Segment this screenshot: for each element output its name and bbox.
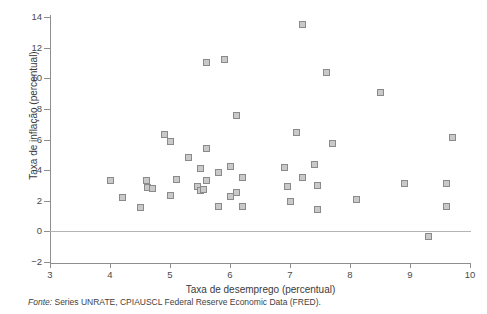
data-point-marker — [215, 203, 222, 210]
x-tick-label: 5 — [155, 270, 185, 280]
y-tick-label: 0 — [16, 226, 42, 236]
data-point-marker — [311, 161, 318, 168]
plot-area — [50, 17, 470, 262]
x-tick-label: 7 — [275, 270, 305, 280]
data-point-marker — [119, 194, 126, 201]
data-point-marker — [107, 177, 114, 184]
data-point-marker — [185, 154, 192, 161]
x-axis-title: Taxa de desemprego (percentual) — [50, 284, 471, 295]
data-point-marker — [287, 198, 294, 205]
y-axis-title: Taxa de inflação (percentual) — [28, 26, 39, 206]
x-tick-label: 10 — [455, 270, 485, 280]
data-point-marker — [314, 206, 321, 213]
data-point-marker — [173, 176, 180, 183]
data-point-marker — [443, 203, 450, 210]
source-note-text: Series UNRATE, CPIAUSCL Federal Reserve … — [52, 297, 321, 307]
data-point-marker — [233, 112, 240, 119]
y-tick-label: 14 — [16, 12, 42, 22]
data-point-marker — [281, 164, 288, 171]
data-point-marker — [137, 204, 144, 211]
data-point-marker — [203, 145, 210, 152]
x-tick-label: 9 — [395, 270, 425, 280]
data-point-marker — [293, 129, 300, 136]
data-point-marker — [353, 196, 360, 203]
data-point-marker — [449, 134, 456, 141]
x-tick-label: 4 — [95, 270, 125, 280]
x-tick-mark — [470, 263, 471, 268]
data-point-marker — [203, 177, 210, 184]
x-tick-label: 3 — [35, 270, 65, 280]
data-point-marker — [149, 185, 156, 192]
data-point-marker — [233, 189, 240, 196]
x-tick-mark — [110, 263, 111, 268]
data-point-marker — [323, 69, 330, 76]
data-point-marker — [401, 180, 408, 187]
data-point-marker — [197, 165, 204, 172]
x-tick-mark — [170, 263, 171, 268]
x-axis-line — [50, 263, 471, 264]
data-point-marker — [167, 192, 174, 199]
data-point-marker — [215, 169, 222, 176]
y-tick-label: −2 — [16, 257, 42, 267]
x-tick-label: 8 — [335, 270, 365, 280]
source-note-label: Fonte: — [28, 297, 52, 307]
data-point-marker — [443, 180, 450, 187]
data-point-marker — [203, 59, 210, 66]
data-point-marker — [221, 56, 228, 63]
x-tick-mark — [350, 263, 351, 268]
data-point-marker — [239, 174, 246, 181]
data-point-marker — [425, 233, 432, 240]
x-tick-mark — [290, 263, 291, 268]
data-point-marker — [167, 138, 174, 145]
x-tick-mark — [230, 263, 231, 268]
data-point-marker — [329, 140, 336, 147]
scatter-chart-figure: −202468101214 345678910 Taxa de inflação… — [0, 0, 487, 314]
source-note: Fonte: Series UNRATE, CPIAUSCL Federal R… — [28, 297, 321, 307]
x-tick-mark — [50, 263, 51, 268]
data-point-marker — [299, 21, 306, 28]
data-point-marker — [200, 186, 207, 193]
data-point-marker — [314, 182, 321, 189]
x-tick-label: 6 — [215, 270, 245, 280]
data-point-marker — [284, 183, 291, 190]
data-point-marker — [299, 174, 306, 181]
x-tick-mark — [410, 263, 411, 268]
data-point-marker — [239, 203, 246, 210]
data-point-marker — [377, 89, 384, 96]
data-point-marker — [227, 163, 234, 170]
